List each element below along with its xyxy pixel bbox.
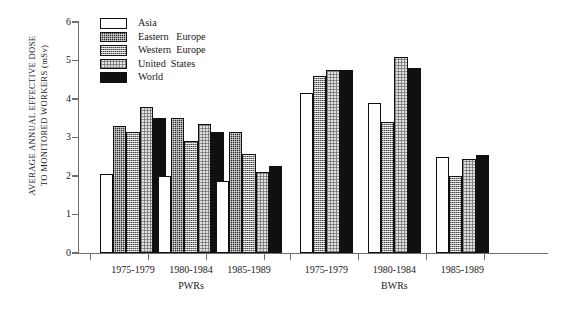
legend-swatch-icon [100,45,127,56]
y-tick-3 [72,137,79,138]
bar [368,103,381,253]
x-category-label: 1980-1984 [357,264,431,276]
bar [126,132,139,253]
bar [229,132,242,253]
bar [171,118,184,253]
x-group-label-pwrs: PWRs [154,280,228,292]
bar [113,126,126,253]
y-axis-title-line2: TO MONITORED WORKERS (mSv) [38,16,50,216]
y-tick-2 [72,175,79,176]
y-tick-label-6: 6 [55,17,71,27]
y-tick-5 [72,60,79,61]
bar [381,122,394,253]
x-tick-6 [426,253,427,260]
bar [408,68,421,253]
y-tick-4 [72,98,79,99]
y-tick-label-2: 2 [55,171,71,181]
y-tick-label-1: 1 [55,209,71,219]
x-tick-7 [484,253,485,260]
y-tick-label-3: 3 [55,132,71,142]
y-tick-label-4: 4 [55,94,71,104]
bar [269,166,282,253]
x-tick-2 [206,253,207,260]
bar [394,57,407,253]
legend-item: World [100,71,250,85]
bar [100,174,113,253]
x-tick-3 [264,253,265,260]
bar [216,181,229,253]
bar [313,76,326,253]
legend-label: United States [138,58,195,71]
legend-label: Asia [138,17,157,30]
x-tick-0 [90,253,91,260]
legend-item: United States [100,58,250,72]
bar [449,176,462,253]
bar [140,107,153,253]
legend-item: Western Europe [100,44,250,58]
bar [340,70,353,253]
x-category-label: 1985-1989 [425,264,499,276]
x-tick-4 [290,253,291,260]
bar [256,172,269,253]
bar [242,154,255,253]
x-tick-5 [358,253,359,260]
x-group-label-bwrs: BWRs [357,280,431,292]
legend-label: Western Europe [138,44,206,57]
legend-swatch-icon [100,59,127,70]
y-axis-title: AVERAGE ANNUAL EFFECTIVE DOSE TO MONITOR… [27,16,50,216]
y-tick-label-0: 0 [55,248,71,258]
legend-label: World [138,71,163,84]
y-tick-0 [72,252,79,253]
bar [198,124,211,253]
legend: AsiaEastern EuropeWestern EuropeUnited S… [100,17,250,85]
bar [326,70,339,253]
legend-swatch-icon [100,32,127,43]
y-tick-6 [72,21,79,22]
x-tick-1 [148,253,149,260]
bar [300,93,313,253]
legend-item: Eastern Europe [100,31,250,45]
legend-label: Eastern Europe [138,31,206,44]
legend-item: Asia [100,17,250,31]
bar [476,155,489,253]
legend-swatch-icon [100,72,127,83]
y-tick-1 [72,214,79,215]
bar [184,141,197,253]
x-category-label: 1985-1989 [212,264,286,276]
x-category-label: 1975-1979 [289,264,363,276]
bar [462,159,475,253]
bar-chart: AVERAGE ANNUAL EFFECTIVE DOSE TO MONITOR… [0,0,567,313]
bar [158,176,171,253]
y-axis-title-line1: AVERAGE ANNUAL EFFECTIVE DOSE [27,16,39,216]
y-tick-label-5: 5 [55,55,71,65]
legend-swatch-icon [100,18,127,29]
bar [436,157,449,253]
